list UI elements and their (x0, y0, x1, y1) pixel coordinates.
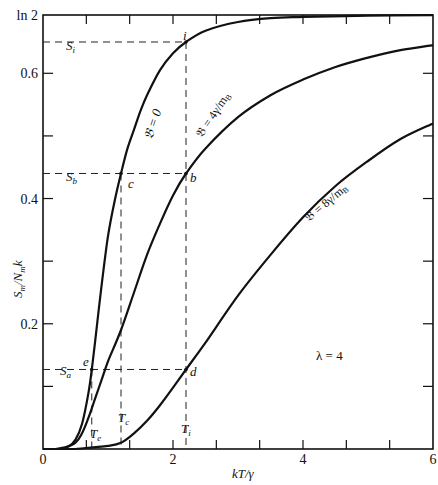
plot-border (43, 15, 433, 449)
x-tick-label: 2 (170, 452, 177, 467)
curve-0 (43, 15, 433, 449)
y-tick-label: ln 2 (17, 8, 38, 23)
x-axis-label: kT/γ (232, 466, 255, 481)
curve-label-b0: 𝔅 = 0 (141, 107, 165, 141)
axis-tick-labels: 02460.20.40.6ln 2 (17, 8, 437, 467)
axis-ticks (43, 15, 433, 449)
reference-lines (43, 42, 186, 449)
point-label-c: c (128, 176, 134, 191)
label-S-b: Sb (66, 169, 78, 186)
point-b (184, 172, 188, 176)
x-tick-label: 0 (40, 452, 47, 467)
x-tick-label: 4 (300, 452, 307, 467)
y-tick-label: 0.4 (21, 192, 39, 207)
point-d (184, 368, 188, 372)
y-tick-label: 0.2 (21, 317, 39, 332)
point-label-e: e (83, 354, 89, 369)
x-tick-label: 6 (430, 452, 437, 467)
curves (43, 15, 433, 449)
lambda-annotation: λ = 4 (316, 348, 343, 363)
point-label-d: d (190, 364, 197, 379)
label-T-c: Tc (118, 410, 129, 427)
point-label-b: b (190, 170, 197, 185)
label-T-e: Te (90, 426, 101, 443)
point-e (90, 368, 94, 372)
label-S-a: Sa (60, 363, 72, 380)
plot-frame (43, 15, 433, 449)
point-label-i: i (183, 28, 187, 43)
entropy-chart: 02460.20.40.6ln 2 Si Sb Sa Te Tc Ti i c … (0, 0, 438, 485)
y-tick-label: 0.6 (21, 66, 39, 81)
y-axis-label: Sm/Nmk (10, 260, 27, 298)
label-S-i: Si (66, 38, 76, 55)
curve-1 (43, 45, 433, 449)
label-T-i: Ti (181, 421, 191, 438)
point-c (119, 172, 123, 176)
curve-label-b4: 𝔅 = 4γ/mB (193, 89, 234, 140)
curve-label-b8: 𝔅 = 8γ/mB (302, 181, 351, 225)
